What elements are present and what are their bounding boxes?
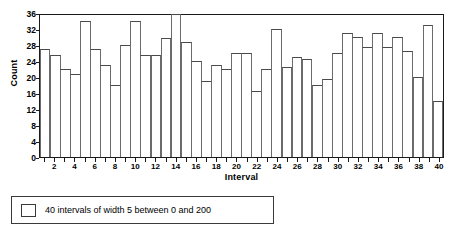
y-tick-label: 12: [14, 106, 36, 115]
y-tick-mark: [36, 126, 39, 127]
x-tick-mark: [287, 158, 288, 162]
x-tick-mark: [328, 158, 329, 162]
x-tick-mark: [267, 158, 268, 162]
y-tick-mark: [36, 46, 39, 47]
x-tick-label: 12: [145, 162, 165, 172]
y-tick-mark: [36, 94, 39, 95]
y-axis-tick-labels: 04812162024283236: [14, 9, 36, 161]
x-tick-mark: [44, 158, 45, 162]
x-tick-mark: [247, 158, 248, 162]
x-tick-mark: [95, 158, 96, 162]
x-tick-mark: [439, 158, 440, 162]
x-tick-mark: [307, 158, 308, 162]
x-tick-label: 28: [307, 162, 327, 172]
x-tick-label: 24: [267, 162, 287, 172]
x-tick-label: 20: [226, 162, 246, 172]
x-tick-mark: [409, 158, 410, 162]
x-tick-label: 14: [166, 162, 186, 172]
x-tick-mark: [368, 158, 369, 162]
x-tick-mark: [358, 158, 359, 162]
x-tick-mark: [105, 158, 106, 162]
x-tick-mark: [176, 158, 177, 162]
x-tick-mark: [419, 158, 420, 162]
x-tick-mark: [206, 158, 207, 162]
x-tick-mark: [54, 158, 55, 162]
x-tick-label: 22: [247, 162, 267, 172]
x-tick-mark: [429, 158, 430, 162]
x-tick-label: 8: [105, 162, 125, 172]
y-tick-label: 8: [14, 122, 36, 131]
x-tick-label: 38: [409, 162, 429, 172]
x-tick-mark: [145, 158, 146, 162]
x-tick-mark: [74, 158, 75, 162]
y-tick-mark: [36, 14, 39, 15]
y-tick-mark: [36, 30, 39, 31]
x-tick-label: 34: [368, 162, 388, 172]
x-tick-mark: [317, 158, 318, 162]
x-tick-mark: [186, 158, 187, 162]
y-tick-label: 0: [14, 154, 36, 163]
y-tick-mark: [36, 78, 39, 79]
x-tick-mark: [257, 158, 258, 162]
x-tick-mark: [348, 158, 349, 162]
x-tick-label: 16: [186, 162, 206, 172]
x-tick-label: 32: [348, 162, 368, 172]
x-tick-mark: [155, 158, 156, 162]
chart-screenshot: Count 04812162024283236 2468101214161820…: [0, 0, 463, 233]
legend-swatch-icon: [21, 204, 36, 217]
plot-area: [39, 14, 444, 158]
y-tick-label: 20: [14, 74, 36, 83]
y-tick-label: 24: [14, 58, 36, 67]
x-tick-label: 6: [85, 162, 105, 172]
x-tick-label: 26: [287, 162, 307, 172]
x-tick-mark: [64, 158, 65, 162]
bar-series: [40, 15, 443, 157]
x-tick-label: 2: [44, 162, 64, 172]
x-tick-label: 30: [328, 162, 348, 172]
x-axis-title: Interval: [39, 172, 444, 182]
x-tick-label: 18: [206, 162, 226, 172]
y-tick-label: 32: [14, 26, 36, 35]
x-tick-mark: [216, 158, 217, 162]
y-tick-label: 28: [14, 42, 36, 51]
legend: 40 intervals of width 5 between 0 and 20…: [11, 196, 274, 224]
x-tick-mark: [226, 158, 227, 162]
x-tick-mark: [236, 158, 237, 162]
x-tick-mark: [297, 158, 298, 162]
x-tick-mark: [398, 158, 399, 162]
x-tick-label: 36: [388, 162, 408, 172]
x-tick-mark: [388, 158, 389, 162]
x-tick-label: 40: [429, 162, 449, 172]
y-tick-label: 16: [14, 90, 36, 99]
legend-label: 40 intervals of width 5 between 0 and 20…: [45, 205, 211, 216]
y-tick-mark: [36, 158, 39, 159]
x-tick-mark: [85, 158, 86, 162]
x-tick-mark: [277, 158, 278, 162]
bar: [433, 101, 444, 157]
y-tick-mark: [36, 142, 39, 143]
y-tick-label: 4: [14, 138, 36, 147]
x-tick-mark: [166, 158, 167, 162]
x-tick-label: 10: [125, 162, 145, 172]
x-tick-mark: [125, 158, 126, 162]
x-tick-mark: [196, 158, 197, 162]
y-tick-mark: [36, 62, 39, 63]
histogram-chart: Count 04812162024283236 2468101214161820…: [0, 0, 463, 182]
x-tick-mark: [115, 158, 116, 162]
x-tick-mark: [135, 158, 136, 162]
x-tick-label: 4: [64, 162, 84, 172]
y-tick-label: 36: [14, 10, 36, 19]
x-tick-mark: [338, 158, 339, 162]
y-tick-mark: [36, 110, 39, 111]
x-tick-mark: [378, 158, 379, 162]
